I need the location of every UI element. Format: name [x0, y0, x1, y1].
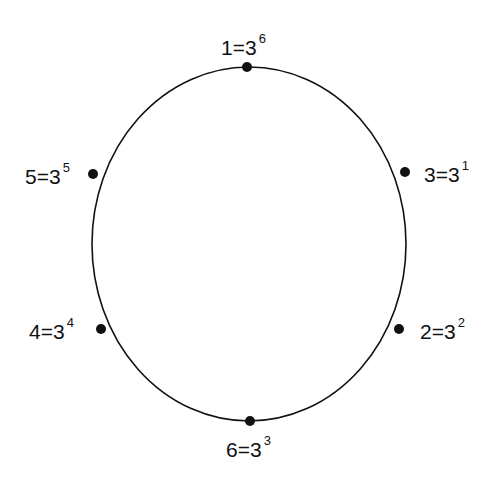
point-markers — [88, 62, 410, 426]
label-6: 6=33 — [226, 438, 271, 460]
point-dot-3 — [400, 167, 410, 177]
point-dot-2 — [394, 324, 404, 334]
cycle-diagram — [0, 0, 500, 477]
label-3: 3=31 — [424, 163, 469, 185]
label-1: 1=36 — [221, 36, 266, 58]
point-dot-1 — [242, 62, 252, 72]
cycle-ellipse — [92, 67, 406, 421]
point-dot-6 — [245, 416, 255, 426]
label-5: 5=35 — [25, 165, 70, 187]
point-dot-4 — [96, 324, 106, 334]
label-4: 4=34 — [29, 320, 74, 342]
point-dot-5 — [88, 169, 98, 179]
label-2: 2=32 — [420, 320, 465, 342]
